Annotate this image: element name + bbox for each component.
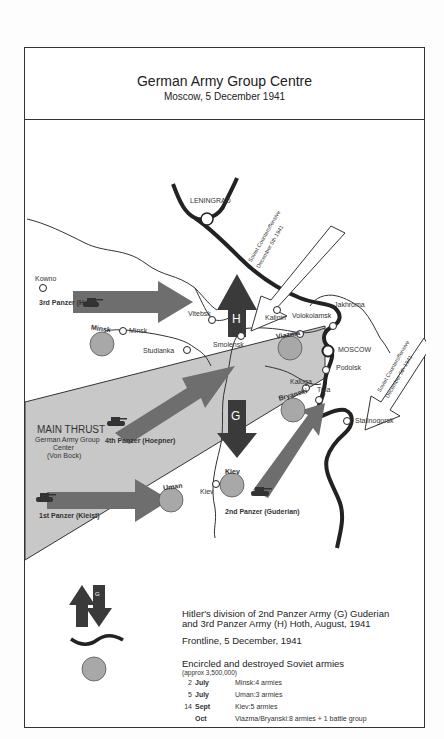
- city-marker-leningrad: [201, 213, 213, 225]
- label-vitebsk: Vitebsk: [188, 310, 211, 317]
- city-marker-kiev: [213, 481, 220, 488]
- city-marker-studianka: [184, 347, 191, 354]
- legend-frontline: Frontline, 5 December, 1941: [182, 635, 302, 646]
- label-studianka: Studianka: [143, 347, 174, 354]
- pocket-bryanski: [281, 398, 305, 422]
- label-third-panzer: 3rd Panzer (Hoth): [39, 299, 97, 306]
- legend-frontline-icon: [71, 636, 123, 645]
- city-marker-stalinogorsk: [344, 418, 351, 425]
- label-jakhroma: Jakhroma: [334, 301, 365, 308]
- city-marker-kowno: [40, 285, 47, 292]
- pocket-viazma: [278, 336, 302, 360]
- city-marker-tula: [316, 397, 323, 404]
- legend-h-arrow-icon: [69, 585, 95, 627]
- label-stalinogorsk: Stalinogorsk: [355, 417, 394, 424]
- label-pocket-kiev: Kiev: [225, 468, 240, 475]
- label-first-panzer: 1st Panzer (Kleist): [39, 512, 100, 519]
- city-marker-vitebsk: [209, 317, 216, 324]
- label-kaluga: Kaluga: [290, 378, 312, 385]
- legend-g-letter: G: [95, 591, 100, 597]
- legend-encircled-icon: [82, 657, 106, 681]
- legend-event-row: 14SeptKiev:5 armies: [182, 703, 277, 710]
- legend-event-row: 5JulyUman:3 armies: [182, 691, 282, 698]
- legend-event-row: OctViazma/Bryanski:8 armies + 1 battle g…: [182, 715, 367, 722]
- label-kowno: Kowno: [35, 275, 56, 282]
- legend-encircled-sub: (approx 3,500,000): [182, 669, 237, 676]
- legend-encircled-title: Encircled and destroyed Soviet armies: [182, 658, 344, 669]
- label-smolensk: Smolensk: [213, 341, 244, 348]
- label-fourth-panzer: 4th Panzer (Hoepner): [105, 437, 175, 444]
- label-kalinin: Kalinin: [265, 314, 286, 321]
- label-moscow: MOSCOW: [338, 346, 371, 353]
- city-marker-jakhroma: [330, 323, 337, 330]
- main-thrust-line3: (Von Bock): [47, 452, 81, 459]
- pocket-kiev: [220, 473, 244, 497]
- map-frame: German Army Group Centre Moscow, 5 Decem…: [24, 47, 425, 728]
- label-leningrad: LENINGRAD: [190, 197, 231, 204]
- label-tula: Tula: [317, 386, 330, 393]
- main-thrust-line2: Center: [53, 444, 74, 451]
- city-marker-minsk: [120, 328, 127, 335]
- label-podolsk: Podolsk: [336, 364, 361, 371]
- city-marker-podolsk: [323, 367, 330, 374]
- pocket-uman: [159, 488, 183, 512]
- city-marker-smolensk: [238, 333, 245, 340]
- legend-event-row: 2JulyMinsk:4 armies: [182, 679, 282, 686]
- pocket-minsk: [90, 332, 114, 356]
- label-second-panzer: 2nd Panzer (Guderian): [225, 508, 300, 515]
- label-volokolamsk: Volokolamsk: [292, 312, 331, 319]
- label-kiev-city: Kiev: [200, 488, 214, 495]
- city-marker-kalinin: [274, 307, 281, 314]
- legend-division-line2: and 3rd Panzer Army (H) Hoth, August, 19…: [182, 618, 371, 629]
- legend-h-letter: H: [71, 607, 75, 613]
- main-thrust-line1: German Army Group: [35, 436, 100, 443]
- label-minsk: Minsk: [129, 327, 147, 334]
- city-marker-moscow: [323, 346, 334, 357]
- label-h-arrow: H: [232, 312, 241, 326]
- main-thrust-title: MAIN THRUST: [37, 424, 105, 435]
- h-arrow: [217, 274, 257, 337]
- label-g-arrow: G: [231, 409, 240, 423]
